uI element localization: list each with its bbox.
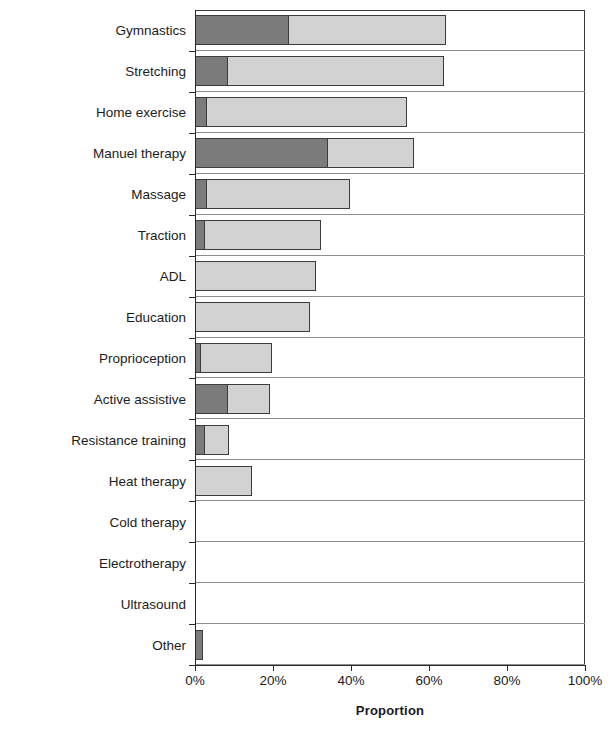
x-axis-tick (351, 665, 352, 671)
stacked-bar (195, 343, 273, 373)
x-axis-label: 20% (259, 673, 286, 688)
bar-row: Ultrasound (195, 583, 585, 624)
stacked-bar (195, 425, 230, 455)
y-axis-label: Active assistive (94, 391, 186, 406)
bar-segment-light (204, 220, 321, 250)
y-axis-label: Traction (138, 228, 186, 243)
bar-row: Home exercise (195, 92, 585, 133)
y-axis-label: Cold therapy (109, 514, 186, 529)
bar-row: Heat therapy (195, 460, 585, 501)
stacked-bar (195, 384, 271, 414)
stacked-bar (195, 302, 310, 332)
x-axis-label: 100% (568, 673, 603, 688)
y-axis-label: Stretching (125, 64, 186, 79)
plot-area: GymnasticsStretchingHome exerciseManuel … (195, 10, 585, 665)
bar-segment-light (200, 343, 272, 373)
x-axis-tick (585, 665, 586, 671)
bar-row: Traction (195, 215, 585, 256)
y-axis-label: Home exercise (96, 105, 186, 120)
bar-segment-light (227, 56, 443, 86)
x-axis-tick (195, 665, 196, 671)
y-axis-label: Manuel therapy (93, 146, 186, 161)
y-axis-label: Ultrasound (121, 596, 186, 611)
x-axis-label: 80% (493, 673, 520, 688)
y-axis-title: Treatment (4, 0, 26, 22)
bar-segment-light (195, 261, 316, 291)
y-axis-label: Massage (131, 187, 186, 202)
stacked-bar (195, 56, 445, 86)
x-axis-label: 0% (185, 673, 205, 688)
bar-row: Electrotherapy (195, 542, 585, 583)
stacked-bar (195, 97, 408, 127)
bar-segment-light (206, 97, 407, 127)
bar-segment-light (204, 425, 229, 455)
bar-segment-dark (195, 384, 228, 414)
bar-row: Cold therapy (195, 501, 585, 542)
y-axis-label: Gymnastics (115, 23, 186, 38)
stacked-bar (195, 138, 415, 168)
bar-segment-light (195, 466, 252, 496)
bar-segment-dark (195, 138, 328, 168)
x-axis-tick (507, 665, 508, 671)
bar-segment-light (195, 302, 310, 332)
y-axis-line (195, 10, 196, 666)
x-axis-label: 40% (337, 673, 364, 688)
x-axis-tick (273, 665, 274, 671)
stacked-bar-chart: Treatment GymnasticsStretchingHome exerc… (0, 0, 609, 733)
bar-row: Gymnastics (195, 10, 585, 51)
bar-segment-light (288, 15, 446, 45)
bar-row: Resistance training (195, 419, 585, 460)
stacked-bar (195, 261, 316, 291)
bar-row: Stretching (195, 51, 585, 92)
bar-row: Active assistive (195, 378, 585, 419)
x-axis-tick (429, 665, 430, 671)
bar-row: ADL (195, 256, 585, 297)
x-axis-line (195, 665, 586, 666)
bar-row: Massage (195, 174, 585, 215)
x-axis-label: 60% (415, 673, 442, 688)
y-axis-label: Other (152, 637, 186, 652)
y-axis-label: Proprioception (99, 350, 186, 365)
stacked-bar (195, 179, 351, 209)
bar-row: Proprioception (195, 338, 585, 379)
y-axis-label: Electrotherapy (99, 555, 186, 570)
x-axis-title: Proportion (195, 703, 585, 718)
bar-row: Other (195, 624, 585, 665)
y-axis-label: Heat therapy (109, 473, 186, 488)
stacked-bar (195, 630, 203, 660)
bar-segment-light (206, 179, 350, 209)
bar-row: Education (195, 297, 585, 338)
stacked-bar (195, 220, 322, 250)
bar-segment-dark (195, 56, 228, 86)
y-axis-label: ADL (160, 269, 186, 284)
y-axis-label: Resistance training (71, 432, 186, 447)
bar-segment-dark (195, 15, 289, 45)
bar-segment-dark (195, 630, 203, 660)
bar-segment-light (227, 384, 270, 414)
y-axis-label: Education (126, 310, 186, 325)
stacked-bar (195, 15, 447, 45)
bar-row: Manuel therapy (195, 133, 585, 174)
stacked-bar (195, 466, 252, 496)
bar-segment-light (327, 138, 415, 168)
